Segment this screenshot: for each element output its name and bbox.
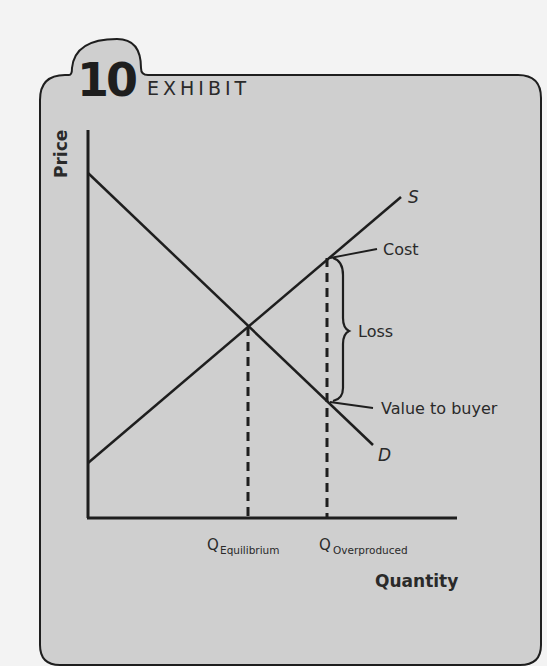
exhibit-number: 10 [77,53,136,107]
exhibit-label: EXHIBIT [147,77,250,99]
exhibit-figure: 10 EXHIBIT Price Quantity S D Cost Loss … [0,0,547,666]
q-letter: Q [207,536,219,554]
demand-label: D [378,445,391,465]
q-overproduced-subscript: Overproduced [333,544,408,556]
cost-label: Cost [383,240,419,259]
q-letter: Q [319,536,331,554]
loss-label: Loss [358,322,393,341]
value-to-buyer-label: Value to buyer [381,399,498,418]
supply-label: S [408,187,419,207]
x-axis-title: Quantity [375,571,458,591]
q-equilibrium-subscript: Equilibrium [220,544,280,556]
y-axis-title: Price [51,130,71,178]
exhibit-panel [40,39,541,665]
